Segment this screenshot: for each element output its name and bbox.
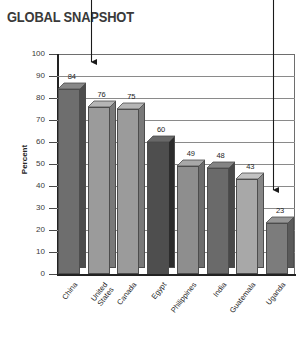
arrow-to-china-icon: [0, 0, 308, 345]
